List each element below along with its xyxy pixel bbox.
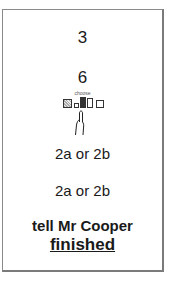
step-number-6: 6 xyxy=(3,68,162,88)
tall-rect-icon xyxy=(87,98,93,108)
option-text-2: 2a or 2b xyxy=(3,182,162,199)
step-number-3: 3 xyxy=(3,28,162,48)
pointing-hand-icon xyxy=(71,110,89,136)
tell-teacher-text: tell Mr Cooper xyxy=(3,217,162,234)
filled-tall-rect-icon xyxy=(80,97,86,108)
small-square-icon xyxy=(74,103,79,108)
square-icon xyxy=(96,100,104,108)
choice-icons xyxy=(63,96,104,108)
option-text-1: 2a or 2b xyxy=(3,145,162,162)
finished-text: finished xyxy=(3,235,162,255)
textured-square-icon xyxy=(63,99,72,108)
instruction-card: 3 6 choose 2a or 2b 2a or 2b tell Mr Coo… xyxy=(2,9,164,272)
